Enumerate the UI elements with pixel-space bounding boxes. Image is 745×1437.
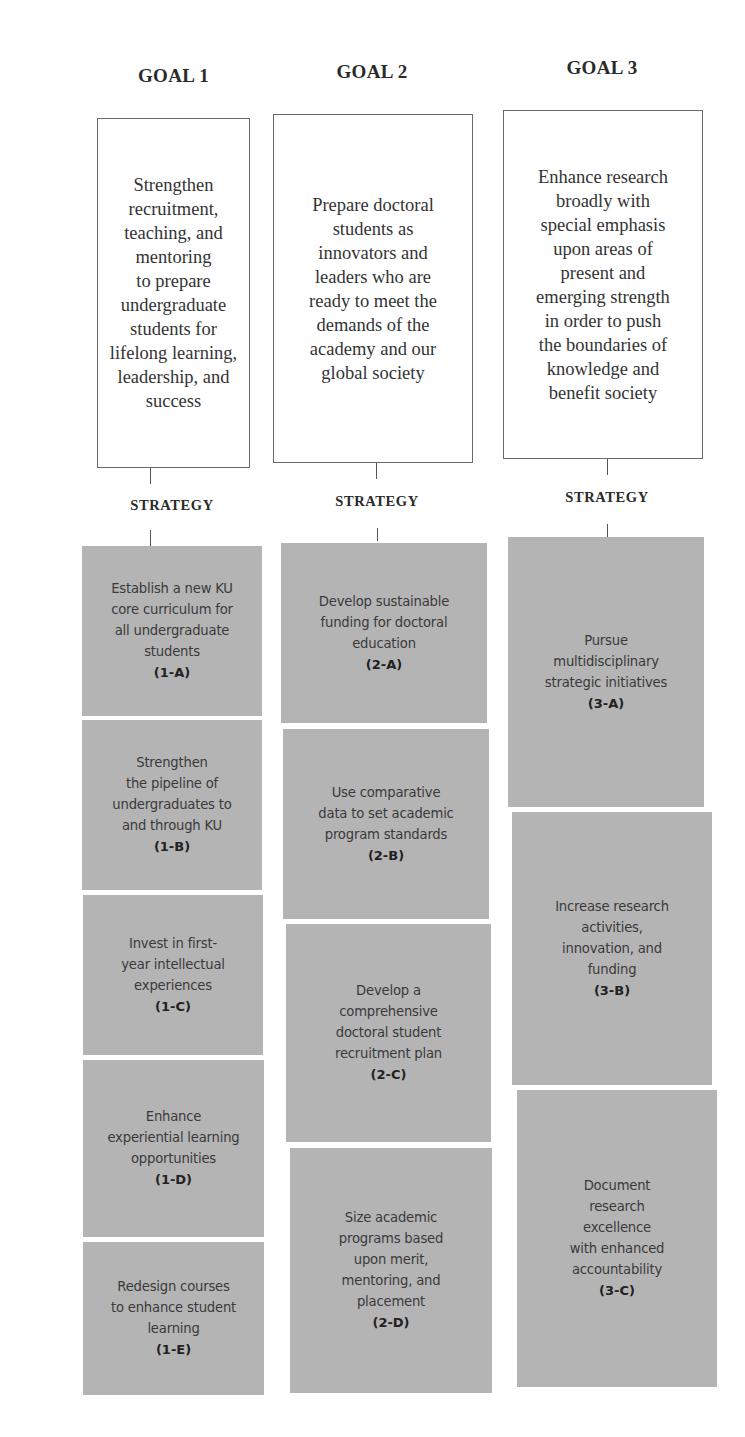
- strategy-2-d: Size academic programs based upon merit,…: [290, 1148, 492, 1393]
- goal-2-description: Prepare doctoral students as innovators …: [309, 193, 437, 385]
- strategy-code: (3-C): [599, 1280, 635, 1302]
- goal-1-connector-bottom: [150, 530, 151, 546]
- strategy-text: Enhance experiential learning opportunit…: [107, 1106, 239, 1169]
- strategy-1-e: Redesign courses to enhance student lear…: [83, 1242, 264, 1395]
- goal-3-title: GOAL 3: [502, 57, 702, 79]
- strategy-text: Size academic programs based upon merit,…: [339, 1207, 443, 1312]
- strategy-text: Establish a new KU core curriculum for a…: [111, 578, 233, 662]
- strategy-2-b: Use comparative data to set academic pro…: [283, 729, 489, 919]
- strategy-code: (2-D): [372, 1312, 409, 1334]
- strategy-1-c: Invest in first- year intellectual exper…: [83, 895, 263, 1055]
- goal-2-connector-top: [376, 463, 377, 479]
- strategy-text: Develop sustainable funding for doctoral…: [319, 591, 449, 654]
- strategy-3-c: Document research excellence with enhanc…: [517, 1090, 717, 1387]
- strategy-text: Pursue multidisciplinary strategic initi…: [545, 630, 667, 693]
- strategy-text: Redesign courses to enhance student lear…: [111, 1276, 236, 1339]
- strategy-code: (1-B): [154, 836, 190, 858]
- strategy-text: Strengthen the pipeline of undergraduate…: [112, 752, 231, 836]
- goal-3-connector-bottom: [607, 524, 608, 537]
- goal-3-description: Enhance research broadly with special em…: [536, 165, 670, 405]
- goal-3-connector-top: [607, 459, 608, 475]
- strategy-3-b: Increase research activities, innovation…: [512, 812, 712, 1085]
- strategy-1-a: Establish a new KU core curriculum for a…: [82, 546, 262, 716]
- goal-3-strategy-label: STRATEGY: [512, 489, 702, 506]
- strategy-code: (1-D): [155, 1169, 192, 1191]
- goal-1-strategy-label: STRATEGY: [82, 497, 262, 514]
- goal-2-title: GOAL 2: [272, 61, 472, 83]
- goal-3-box: Enhance research broadly with special em…: [503, 110, 703, 459]
- goal-1-title: GOAL 1: [97, 65, 250, 87]
- strategy-text: Document research excellence with enhanc…: [570, 1175, 665, 1280]
- goal-1-description: Strengthen recruitment, teaching, and me…: [110, 173, 237, 413]
- strategy-1-d: Enhance experiential learning opportunit…: [83, 1060, 264, 1237]
- strategy-1-b: Strengthen the pipeline of undergraduate…: [82, 720, 262, 890]
- strategy-code: (1-E): [156, 1339, 191, 1361]
- strategy-code: (3-B): [594, 980, 630, 1002]
- strategy-text: Develop a comprehensive doctoral student…: [335, 980, 442, 1064]
- goal-2-strategy-label: STRATEGY: [282, 493, 472, 510]
- strategy-code: (2-A): [366, 654, 402, 676]
- strategy-code: (1-A): [154, 662, 190, 684]
- strategy-text: Invest in first- year intellectual exper…: [121, 933, 225, 996]
- strategy-3-a: Pursue multidisciplinary strategic initi…: [508, 537, 704, 807]
- strategy-code: (2-B): [368, 845, 404, 867]
- strategy-code: (1-C): [155, 996, 191, 1018]
- goal-2-box: Prepare doctoral students as innovators …: [273, 114, 473, 463]
- strategy-2-c: Develop a comprehensive doctoral student…: [286, 924, 491, 1142]
- strategy-2-a: Develop sustainable funding for doctoral…: [281, 543, 487, 723]
- goal-1-box: Strengthen recruitment, teaching, and me…: [97, 118, 250, 468]
- strategy-code: (2-C): [371, 1064, 407, 1086]
- strategy-text: Use comparative data to set academic pro…: [318, 782, 453, 845]
- goal-2-connector-bottom: [377, 528, 378, 541]
- strategy-code: (3-A): [588, 693, 624, 715]
- goal-1-connector-top: [150, 468, 151, 484]
- strategy-text: Increase research activities, innovation…: [555, 896, 669, 980]
